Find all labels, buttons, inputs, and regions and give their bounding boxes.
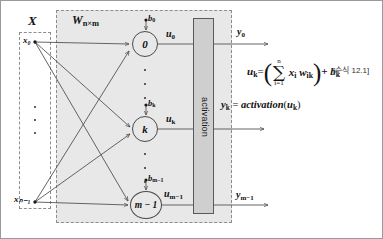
eq2-paren-close: ): [297, 99, 301, 110]
sigma-icon: ∑: [273, 65, 285, 80]
eq1-sum-lower: i=1: [274, 80, 283, 87]
input-node-dot-x0: [33, 40, 36, 43]
neuron-output-label-um-1: um−1: [164, 188, 183, 201]
eq1-x-subscript: i: [294, 70, 296, 79]
bias-subscript-bm-1: m−1: [152, 177, 163, 183]
bias-label-bk: bk: [148, 98, 156, 108]
bias-subscript-bk: k: [152, 102, 155, 108]
eq1-paren-open: (: [264, 63, 272, 83]
neuron-m-1-label: m − 1: [135, 200, 158, 210]
input-vector-label: X: [28, 13, 37, 29]
neuron-0: 0: [132, 31, 158, 57]
neuron-ellipsis-upper: [143, 69, 147, 99]
output-label-y0: y0: [237, 26, 245, 39]
neuron-m-1: m − 1: [130, 191, 162, 219]
neuron-ellipsis-lower: [143, 153, 147, 183]
uk-subscript: k: [172, 118, 176, 126]
um-subscript: m−1: [170, 193, 183, 201]
bias-label-bm-1: bm−1: [148, 173, 164, 183]
diagram-canvas: activation 0 k m − 1 X Wn×m x₀ xₙ₋₁ b0 b…: [0, 0, 383, 239]
neuron-output-label-uk: uk: [166, 113, 175, 126]
neuron-k: k: [132, 116, 158, 142]
bias-label-b0: b0: [148, 13, 155, 23]
connection-wires: [1, 1, 383, 239]
input-node-label-xn: xₙ₋₁: [14, 194, 31, 204]
neuron-k-label: k: [142, 123, 148, 135]
neuron-output-label-u0: u0: [166, 28, 175, 41]
eq2-lhs-subscript: k: [226, 103, 230, 112]
equation-yk: yk = activation(uk): [221, 99, 300, 112]
weight-matrix-subscript: n×m: [83, 19, 99, 28]
equation-uk: uk= ( n ∑ i=1 xi wik ) + bk: [247, 58, 340, 87]
y0-subscript: 0: [241, 31, 245, 39]
input-ellipsis: [33, 106, 37, 134]
eq1-w-symbol: w: [299, 66, 306, 78]
weight-matrix-symbol: W: [72, 13, 83, 27]
input-node-dot-xn: [33, 200, 36, 203]
eq2-equals: =: [232, 99, 238, 110]
equation-reference: [수식 12.1]: [333, 64, 369, 75]
eq2-function-name: activation: [241, 99, 284, 110]
activation-block-label: activation: [194, 19, 215, 215]
input-node-label-x0: x₀: [23, 35, 31, 45]
ym-subscript: m−1: [240, 194, 253, 202]
u0-subscript: 0: [172, 33, 176, 41]
bias-subscript-b0: 0: [152, 17, 155, 23]
weight-matrix-label: Wn×m: [72, 13, 99, 28]
output-label-ym-1: ym−1: [236, 189, 254, 202]
neuron-0-label: 0: [142, 38, 148, 50]
activation-block: activation: [193, 18, 214, 214]
